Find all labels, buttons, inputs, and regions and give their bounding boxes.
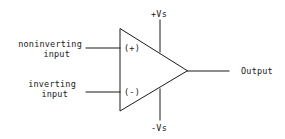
inverting-label-line2: input: [8, 89, 76, 99]
output-label: Output: [241, 66, 273, 76]
plus-terminal-label: (+): [124, 43, 140, 53]
noninverting-input-label: noninverting input: [8, 39, 82, 59]
negative-supply-label: -Vs: [146, 123, 172, 133]
noninverting-label-line2: input: [8, 49, 82, 59]
noninverting-label-line1: noninverting: [8, 39, 82, 49]
positive-supply-label: +Vs: [146, 9, 172, 19]
inverting-input-label: inverting input: [8, 79, 76, 99]
minus-terminal-label: (-): [124, 87, 140, 97]
inverting-label-line1: inverting: [8, 79, 76, 89]
amplifier-triangle: [120, 29, 187, 111]
